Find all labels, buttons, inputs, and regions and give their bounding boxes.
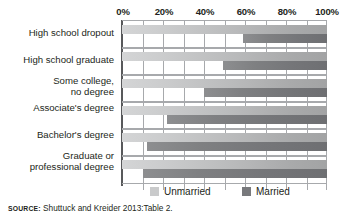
bar-unmarried-high-school-dropout[interactable] [122,25,327,34]
legend-label-married: Married [256,186,290,197]
bar-married-high-school-dropout[interactable] [243,34,327,43]
x-tick-label-0: 0% [116,6,129,17]
chart-plot-area: 0% 20% 40% 60% 80% 100% High school drop… [0,0,340,196]
x-tick-label-3: 60% [237,6,255,17]
x-tick-label-5: 100% [315,6,339,17]
category-label-some-college-no-degree: Some college, no degree [53,76,114,97]
category-label-graduate-or-professional-degree: Graduate or professional degree [30,151,114,172]
legend-item-married[interactable]: Married [242,186,290,197]
x-axis-tick-labels: 0% 20% 40% 60% 80% 100% [0,6,340,20]
bar-unmarried-graduate-or-professional-degree[interactable] [122,160,327,169]
category-label-associates-degree: Associate's degree [33,103,114,114]
category-label-high-school-graduate: High school graduate [23,55,114,66]
x-tick-label-1: 20% [155,6,173,17]
bar-unmarried-associates-degree[interactable] [122,106,327,115]
chart-grid [122,22,327,184]
chart-legend: Unmarried Married [122,186,340,200]
legend-swatch-married-icon [242,187,251,196]
bar-unmarried-some-college-no-degree[interactable] [122,79,327,88]
bar-married-some-college-no-degree[interactable] [204,88,327,97]
bar-married-bachelors-degree[interactable] [147,142,327,151]
source-value: Shuttuck and Kreider 2013:Table 2. [41,203,173,213]
bar-unmarried-bachelors-degree[interactable] [122,133,327,142]
bar-married-associates-degree[interactable] [167,115,327,124]
legend-label-unmarried: Unmarried [164,186,211,197]
bar-married-high-school-graduate[interactable] [223,61,328,70]
legend-item-unmarried[interactable]: Unmarried [150,186,211,197]
legend-swatch-unmarried-icon [150,187,159,196]
x-tick-label-4: 80% [278,6,296,17]
category-label-bachelors-degree: Bachelor's degree [37,130,114,141]
category-label-high-school-dropout: High school dropout [29,28,114,39]
source-label: SOURCE: [8,205,41,212]
chart-figure: 0% 20% 40% 60% 80% 100% High school drop… [0,0,340,222]
bar-unmarried-high-school-graduate[interactable] [122,52,327,61]
source-note: SOURCE: Shuttuck and Kreider 2013:Table … [8,203,338,213]
bar-married-graduate-or-professional-degree[interactable] [143,169,328,178]
x-tick-label-2: 40% [196,6,214,17]
y-axis-category-labels: High school dropout High school graduate… [0,22,118,184]
